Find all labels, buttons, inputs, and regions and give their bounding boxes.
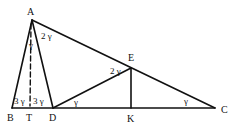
angle-label-dac: 2 γ [41,31,52,41]
segment-ab [12,20,32,108]
angle-label-edc: γ [73,97,78,107]
angle-label-dea: 2 γ [110,66,121,76]
point-label-d: D [49,112,56,123]
segment-at-dashed [30,24,31,106]
point-label-t: T [26,112,32,123]
segment-ac [32,20,215,108]
angle-label-b: 3 γ [14,96,25,106]
point-label-b: B [7,112,14,123]
point-label-e: E [128,52,134,63]
point-label-c: C [221,104,228,115]
angle-label-c: γ [183,96,188,106]
point-label-a: A [27,6,35,17]
angle-label-adb: 3 γ [33,96,44,106]
angle-label-tad: γ [28,40,33,50]
point-label-k: K [127,113,135,124]
geometry-diagram: A B T D E K C γ 2 γ 3 γ 3 γ γ 2 γ γ [0,0,233,131]
